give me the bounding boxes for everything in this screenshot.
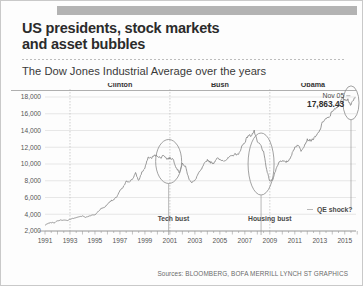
x-axis-tick-labels: 1991199319951997199920012003200520072009… (38, 237, 353, 244)
svg-text:1995: 1995 (88, 237, 103, 244)
svg-text:14,000: 14,000 (21, 127, 42, 134)
svg-text:2009: 2009 (262, 237, 277, 244)
svg-text:1999: 1999 (138, 237, 153, 244)
svg-text:17,863.43: 17,863.43 (307, 99, 345, 109)
infographic-frame: US presidents, stock markets and asset b… (0, 0, 363, 286)
svg-text:2011: 2011 (288, 237, 303, 244)
svg-text:2013: 2013 (312, 237, 327, 244)
y-axis-tick-labels: 2,0004,0006,0008,00010,00012,00014,00016… (21, 93, 42, 234)
x-axis (39, 231, 357, 235)
svg-text:16,000: 16,000 (21, 110, 42, 117)
header-accent-bar (57, 6, 357, 15)
svg-text:Housing bust: Housing bust (248, 215, 292, 223)
svg-text:18,000: 18,000 (21, 93, 42, 100)
title-divider (22, 59, 344, 60)
dow-jones-line-chart: ClintonBushObama 2,0004,0006,0008,00010,… (1, 83, 363, 269)
svg-text:8,000: 8,000 (24, 177, 41, 184)
svg-text:2,000: 2,000 (24, 227, 41, 234)
svg-text:2001: 2001 (163, 237, 178, 244)
svg-text:Obama: Obama (301, 83, 326, 89)
svg-text:Bush: Bush (211, 83, 229, 89)
dow-series-line (45, 97, 355, 225)
svg-text:2015: 2015 (337, 237, 352, 244)
svg-text:1993: 1993 (63, 237, 78, 244)
svg-text:4,000: 4,000 (24, 211, 41, 218)
svg-text:12,000: 12,000 (21, 144, 42, 151)
source-credit: Sources: BLOOMBERG, BOFA MERRILL LYNCH S… (157, 270, 348, 277)
chart-annotations: Tech bustHousing bustQE shock?Nov 0517,8… (156, 86, 359, 235)
page-title-line2: and asset bubbles (22, 37, 342, 53)
svg-text:1997: 1997 (113, 237, 128, 244)
president-labels: ClintonBushObama (11, 83, 356, 91)
svg-text:Nov 05: Nov 05 (322, 92, 344, 99)
svg-text:10,000: 10,000 (21, 160, 42, 167)
chart-subtitle: The Dow Jones Industrial Average over th… (22, 65, 352, 77)
page-title: US presidents, stock markets and asset b… (22, 21, 342, 52)
page-title-line1: US presidents, stock markets (22, 21, 342, 37)
svg-text:2003: 2003 (188, 237, 203, 244)
svg-text:Clinton: Clinton (108, 83, 133, 89)
svg-text:Tech bust: Tech bust (158, 215, 190, 222)
chart-area: ClintonBushObama 2,0004,0006,0008,00010,… (1, 83, 363, 269)
svg-text:2007: 2007 (238, 237, 253, 244)
svg-text:6,000: 6,000 (24, 194, 41, 201)
svg-text:2005: 2005 (213, 237, 228, 244)
svg-text:QE shock?: QE shock? (317, 206, 353, 214)
grid-lines (45, 97, 356, 231)
svg-text:1991: 1991 (38, 237, 53, 244)
